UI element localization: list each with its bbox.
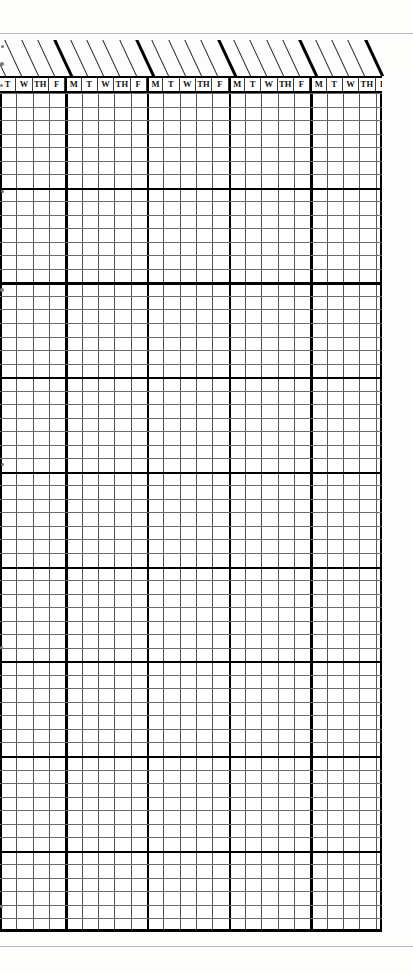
day-header-cell-th-17: TH	[278, 78, 294, 91]
grid-vertical-line	[131, 93, 132, 929]
grid-body[interactable]	[0, 93, 382, 932]
grid-horizontal-line	[0, 539, 382, 540]
scan-speck	[1, 45, 4, 48]
grid-horizontal-line	[0, 120, 382, 121]
grid-horizontal-line	[0, 364, 382, 365]
header-diagonal-mark	[200, 40, 220, 76]
grid-vertical-line	[147, 93, 149, 929]
grid-vertical-line	[33, 93, 34, 929]
grid-vertical-line	[98, 93, 99, 929]
grid-vertical-line	[180, 93, 181, 929]
right-margin	[382, 76, 413, 932]
grid-horizontal-line	[0, 161, 382, 162]
header-diagonal-mark	[183, 40, 203, 76]
day-header-cell-f-18: F	[294, 78, 310, 91]
grid-horizontal-line	[0, 783, 382, 784]
grid-horizontal-line	[0, 107, 382, 108]
day-header-strip: TWTHFMTWTHFMTWTHFMTWTHFMTWTHF	[0, 76, 382, 93]
day-header-cell-w-1: W	[16, 78, 32, 91]
grid-vertical-line	[163, 93, 164, 929]
grid-horizontal-line	[0, 621, 382, 622]
grid-horizontal-line	[0, 201, 382, 202]
header-diagonal-mark	[36, 40, 56, 76]
day-header-cell-m-14: M	[229, 78, 245, 91]
day-header-cell-f-13: F	[212, 78, 228, 91]
day-header-cell-f-8: F	[131, 78, 147, 91]
day-header-cell-th-2: TH	[33, 78, 49, 91]
header-diagonal-mark	[102, 40, 122, 76]
header-diagonal-mark	[118, 40, 138, 76]
grid-horizontal-line	[0, 648, 382, 649]
grid-horizontal-line	[0, 756, 382, 758]
day-header-cell-f-3: F	[49, 78, 65, 91]
header-diagonal-mark	[134, 40, 155, 76]
grid-horizontal-line	[0, 431, 382, 432]
bottom-page-rule	[0, 946, 413, 947]
grid-vertical-line	[327, 93, 328, 929]
grid-horizontal-line	[0, 309, 382, 310]
grid-vertical-line	[212, 93, 213, 929]
grid-horizontal-line	[0, 377, 382, 379]
day-header-cell-th-7: TH	[114, 78, 130, 91]
grid-vertical-line	[196, 93, 197, 929]
grid-horizontal-line	[0, 418, 382, 419]
grid-vertical-line	[114, 93, 115, 929]
header-diagonal-mark	[4, 40, 24, 76]
grid-horizontal-line	[0, 255, 382, 256]
grid-horizontal-line	[0, 242, 382, 243]
grid-vertical-line	[49, 93, 50, 929]
grid-horizontal-line	[0, 905, 382, 906]
grid-horizontal-line	[0, 742, 382, 743]
grid-horizontal-line	[0, 499, 382, 500]
grid-horizontal-line	[0, 864, 382, 865]
scan-speck	[0, 84, 3, 87]
header-diagonal-mark	[216, 40, 237, 76]
scan-speck	[0, 62, 4, 66]
grid-vertical-line	[294, 93, 295, 929]
grid-horizontal-line	[0, 837, 382, 838]
day-header-cell-m-4: M	[65, 78, 81, 91]
header-diagonal-mark	[151, 40, 171, 76]
grid-horizontal-line	[0, 458, 382, 459]
scan-speck	[0, 646, 3, 649]
day-header-cell-w-11: W	[180, 78, 196, 91]
grid-horizontal-line	[0, 810, 382, 811]
grid-horizontal-line	[0, 594, 382, 595]
grid-horizontal-line	[0, 215, 382, 216]
grid-horizontal-line	[0, 269, 382, 270]
grid-horizontal-line	[0, 282, 382, 284]
grid-horizontal-line	[0, 729, 382, 730]
day-header-cell-m-9: M	[147, 78, 163, 91]
grid-horizontal-line	[0, 661, 382, 663]
day-header-cell-t-5: T	[82, 78, 98, 91]
day-header-cell-th-22: TH	[359, 78, 375, 91]
header-diagonal-mark	[363, 40, 384, 76]
grid-horizontal-line	[0, 174, 382, 175]
grid-horizontal-line	[0, 797, 382, 798]
grid-vertical-line	[376, 93, 377, 929]
grid-horizontal-line	[0, 634, 382, 635]
grid-horizontal-line	[0, 567, 382, 569]
grid-horizontal-line	[0, 445, 382, 446]
header-diagonal-mark	[167, 40, 187, 76]
grid-horizontal-line	[0, 472, 382, 474]
day-header-cell-t-20: T	[327, 78, 343, 91]
grid-vertical-line	[0, 93, 2, 929]
grid-horizontal-line	[0, 824, 382, 825]
grid-vertical-line	[278, 93, 279, 929]
header-diagonal-band	[0, 40, 392, 76]
grid-horizontal-line	[0, 391, 382, 392]
grid-horizontal-line	[0, 228, 382, 229]
grid-vertical-line	[310, 93, 312, 929]
grid-vertical-line	[359, 93, 360, 929]
scan-speck	[0, 288, 4, 292]
grid-horizontal-line	[0, 526, 382, 527]
day-header-cell-m-19: M	[310, 78, 326, 91]
grid-horizontal-line	[0, 891, 382, 892]
scan-speck	[1, 190, 4, 193]
grid-horizontal-line	[0, 296, 382, 297]
scanned-page: TWTHFMTWTHFMTWTHFMTWTHFMTWTHF	[0, 0, 413, 974]
grid-horizontal-line	[0, 715, 382, 716]
grid-horizontal-line	[0, 485, 382, 486]
header-diagonal-mark	[69, 40, 89, 76]
